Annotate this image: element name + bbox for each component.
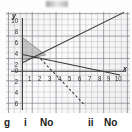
x-tick-9: 9	[107, 76, 110, 82]
y-tick-6: 6	[6, 40, 18, 46]
part-i-answer: No	[40, 117, 53, 129]
y-tick-10: 10	[6, 18, 18, 24]
y-tick-8: 8	[6, 29, 18, 35]
x-tick-8: 8	[98, 76, 101, 82]
x-tick-4: 4	[58, 76, 61, 82]
y-tick-4: 4	[6, 51, 18, 57]
x-tick-1: 1	[28, 76, 31, 82]
x-tick-3: 3	[48, 76, 51, 82]
plot-svg	[6, 12, 130, 113]
x-tick-10: 10	[115, 76, 122, 82]
graph-panel	[6, 12, 130, 113]
y-tick-neg4: 4	[6, 90, 18, 96]
plot-area	[6, 12, 130, 113]
x-tick-5: 5	[68, 76, 71, 82]
question-label: g	[4, 117, 10, 129]
x-axis-title: x	[123, 66, 127, 72]
falling-line	[22, 54, 120, 75]
y-tick-0: 0	[6, 68, 18, 74]
answer-strip: g i No ii No	[0, 114, 132, 132]
worksheet-graph-page: y x 10 8 6 4 2 0 2 4 6 1 2 3 4 5 6 7 8 9…	[0, 0, 132, 132]
part-i-label: i	[24, 117, 27, 129]
x-tick-2: 2	[38, 76, 41, 82]
part-ii-label: ii	[88, 117, 94, 129]
y-tick-neg6: 6	[6, 101, 18, 107]
x-tick-6: 6	[78, 76, 81, 82]
x-tick-7: 7	[88, 76, 91, 82]
y-tick-neg2: 2	[6, 79, 18, 85]
part-ii-answer: No	[104, 117, 117, 129]
scan-smudge-icon	[46, 1, 68, 7]
rising-line	[22, 12, 124, 62]
